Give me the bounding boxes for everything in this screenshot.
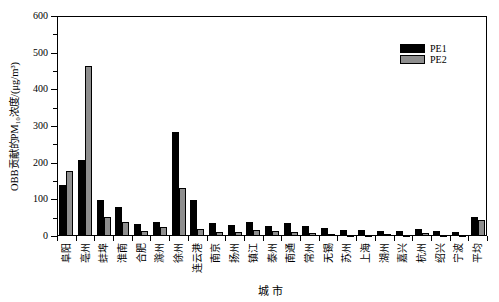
y-minor-tick-mark [53,71,57,72]
y-tick-label: 0 [16,231,48,241]
bar-pe1-无锡 [321,228,328,236]
legend-swatch-pe2 [400,55,425,64]
x-category-label: 苏州 [341,243,352,263]
x-tick-mark [188,236,189,241]
bar-pe2-宁波 [459,235,466,237]
legend: PE1PE2 [400,44,447,66]
x-category-label: 阜阳 [61,243,72,263]
x-axis-title: 城市 [57,282,487,298]
x-tick-mark [113,236,114,241]
bar-pe1-绍兴 [433,231,440,236]
bar-pe1-常州 [302,226,309,236]
x-category-label: 淮南 [117,243,128,263]
x-tick-mark [169,236,170,241]
x-tick-mark [394,236,395,241]
x-category-label: 镇江 [248,243,259,263]
x-tick-mark [412,236,413,241]
x-category-label: 亳州 [80,243,91,263]
x-tick-mark [263,236,264,241]
x-tick-mark [337,236,338,241]
x-category-label: 绍兴 [435,243,446,263]
bar-pe2-杭州 [422,233,429,236]
x-category-label: 扬州 [229,243,240,263]
bar-pe1-徐州 [172,132,179,236]
y-tick-mark [51,199,57,200]
x-category-label: 平均 [472,243,483,263]
bar-pe2-绍兴 [440,235,447,237]
x-tick-mark [319,236,320,241]
x-category-label: 湖州 [379,243,390,263]
bar-pe1-淮南 [115,207,122,236]
x-tick-mark [57,236,58,241]
bar-pe1-南通 [284,223,291,236]
bar-pe1-湖州 [377,231,384,237]
y-tick-mark [51,163,57,164]
bar-pe2-阜阳 [66,171,73,236]
legend-entry-pe2: PE2 [400,55,447,64]
bar-pe2-镇江 [253,230,260,236]
x-tick-mark [150,236,151,241]
bar-pe2-嘉兴 [403,235,410,237]
x-category-label: 南通 [285,243,296,263]
bar-pe2-合肥 [141,231,148,236]
chart-figure: OBB贡献的PM₁₀浓度/(μg/m³) 0100200300400500600… [0,0,499,302]
y-tick-label: 300 [16,121,48,131]
bar-pe1-嘉兴 [396,231,403,236]
x-tick-mark [281,236,282,241]
x-category-label: 滁州 [154,243,165,263]
y-minor-tick-mark [53,181,57,182]
legend-entry-pe1: PE1 [400,44,447,53]
x-tick-mark [244,236,245,241]
bar-pe2-南通 [291,232,298,236]
y-minor-tick-mark [53,108,57,109]
bar-pe2-常州 [309,233,316,236]
bar-pe2-上海 [365,235,372,237]
x-category-label: 蚌埠 [98,243,109,263]
bar-pe2-苏州 [347,235,354,237]
bar-pe2-湖州 [384,234,391,236]
y-tick-mark [51,53,57,54]
x-tick-mark [450,236,451,241]
x-category-label: 泰州 [267,243,278,263]
y-tick-mark [51,16,57,17]
x-category-label: 杭州 [416,243,427,263]
y-tick-label: 600 [16,11,48,21]
bar-pe2-南京 [216,232,223,236]
bar-pe1-亳州 [78,160,85,236]
legend-label-pe1: PE1 [430,44,447,54]
x-tick-mark [300,236,301,241]
x-category-label: 合肥 [136,243,147,263]
y-tick-label: 200 [16,158,48,168]
x-tick-mark [375,236,376,241]
bar-pe1-镇江 [246,222,253,236]
y-tick-mark [51,126,57,127]
x-tick-mark [94,236,95,241]
bar-pe1-扬州 [228,225,235,236]
y-tick-label: 100 [16,194,48,204]
x-category-label: 连云港 [192,243,203,273]
y-tick-mark [51,89,57,90]
y-minor-tick-mark [53,218,57,219]
x-tick-mark [76,236,77,241]
bar-pe1-南京 [209,223,216,236]
x-category-label: 常州 [304,243,315,263]
bar-pe1-滁州 [153,222,160,236]
bar-pe2-淮南 [122,222,129,236]
bar-pe1-杭州 [415,229,422,236]
y-minor-tick-mark [53,34,57,35]
x-tick-mark [431,236,432,241]
x-category-label: 南京 [210,243,221,263]
bar-pe1-上海 [358,230,365,236]
bar-pe2-平均 [478,220,485,236]
bar-pe1-平均 [471,217,478,236]
x-tick-mark [356,236,357,241]
legend-swatch-pe1 [400,44,425,53]
x-category-label: 嘉兴 [397,243,408,263]
bar-pe2-亳州 [85,66,92,237]
x-category-label: 徐州 [173,243,184,263]
x-tick-mark [132,236,133,241]
bar-pe2-徐州 [179,188,186,236]
x-tick-mark [207,236,208,241]
bar-pe2-滁州 [160,227,167,236]
y-minor-tick-mark [53,144,57,145]
